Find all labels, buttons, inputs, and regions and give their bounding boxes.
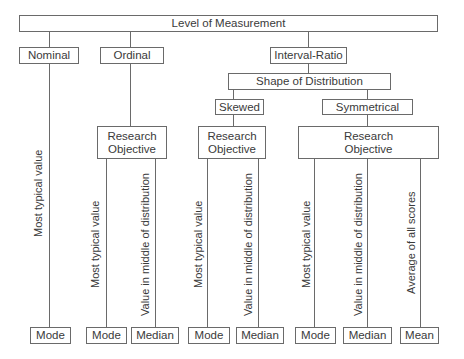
- ordinal-label: Ordinal: [113, 49, 150, 62]
- connector-symmetrical-mean: [420, 159, 421, 327]
- nominal-objective-most-typical: Most typical value: [32, 150, 44, 237]
- connector-root-nominal: [49, 32, 50, 47]
- measure-label: Mode: [36, 329, 65, 342]
- connector-symmetrical-median: [367, 159, 368, 327]
- measure-label: Median: [349, 329, 387, 342]
- skewed-label: Skewed: [219, 101, 260, 114]
- measure-box-symmetrical-median: Median: [343, 327, 392, 344]
- connector-nominal-mode: [49, 64, 50, 327]
- measure-box-skewed-median: Median: [236, 327, 284, 344]
- research-objective-line2: Objective: [108, 143, 156, 156]
- connector-shape-symmetrical: [367, 90, 368, 99]
- measure-label: Mode: [195, 329, 224, 342]
- measure-box-symmetrical-mean: Mean: [400, 327, 439, 344]
- symmetrical-objective-average: Average of all scores: [405, 191, 417, 294]
- connector-skewed-research: [233, 115, 234, 126]
- connector-ordinal-research: [130, 64, 131, 126]
- connector-interval-shape: [308, 64, 309, 73]
- measure-box-ordinal-mode: Mode: [86, 327, 127, 344]
- level-of-measurement-label: Level of Measurement: [172, 17, 286, 30]
- skewed-box: Skewed: [215, 99, 264, 115]
- interval-ratio-label: Interval-Ratio: [274, 49, 342, 62]
- connector-ordinal-median: [155, 159, 156, 327]
- connector-ordinal-mode: [106, 159, 107, 327]
- connector-symmetrical-research: [367, 115, 368, 126]
- symmetrical-objective-most-typical: Most typical value: [300, 201, 312, 288]
- ordinal-research-objective-box: Research Objective: [97, 126, 167, 159]
- measure-label: Mode: [92, 329, 121, 342]
- symmetrical-research-objective-box: Research Objective: [298, 126, 439, 159]
- symmetrical-box: Symmetrical: [322, 99, 413, 115]
- research-objective-line1: Research: [107, 130, 156, 143]
- research-objective-line1: Research: [344, 130, 393, 143]
- connector-symmetrical-mode: [314, 159, 315, 327]
- symmetrical-label: Symmetrical: [336, 101, 399, 114]
- measure-label: Median: [136, 329, 174, 342]
- nominal-label: Nominal: [28, 49, 70, 62]
- research-objective-line1: Research: [207, 130, 256, 143]
- research-objective-line2: Objective: [345, 143, 393, 156]
- measure-box-nominal-mode: Mode: [30, 327, 71, 344]
- ordinal-objective-middle: Value in middle of distribution: [139, 173, 151, 316]
- measure-box-ordinal-median: Median: [131, 327, 179, 344]
- measure-box-skewed-mode: Mode: [188, 327, 230, 344]
- connector-root-interval: [308, 32, 309, 47]
- symmetrical-objective-middle: Value in middle of distribution: [352, 173, 364, 316]
- interval-ratio-box: Interval-Ratio: [270, 47, 347, 64]
- measure-label: Mean: [405, 329, 434, 342]
- ordinal-objective-most-typical: Most typical value: [89, 201, 101, 288]
- measure-box-symmetrical-mode: Mode: [295, 327, 336, 344]
- connector-root-ordinal: [130, 32, 131, 47]
- connector-skewed-mode: [207, 159, 208, 327]
- skewed-objective-middle: Value in middle of distribution: [242, 173, 254, 316]
- research-objective-line2: Objective: [208, 143, 256, 156]
- shape-of-distribution-label: Shape of Distribution: [256, 75, 363, 88]
- measure-label: Mode: [301, 329, 330, 342]
- skewed-research-objective-box: Research Objective: [198, 126, 266, 159]
- ordinal-box: Ordinal: [100, 47, 164, 64]
- level-of-measurement-box: Level of Measurement: [19, 15, 438, 32]
- connector-shape-skewed: [233, 90, 234, 99]
- shape-of-distribution-box: Shape of Distribution: [228, 73, 391, 90]
- measure-label: Median: [241, 329, 279, 342]
- nominal-box: Nominal: [19, 47, 79, 64]
- connector-skewed-median: [258, 159, 259, 327]
- skewed-objective-most-typical: Most typical value: [192, 201, 204, 288]
